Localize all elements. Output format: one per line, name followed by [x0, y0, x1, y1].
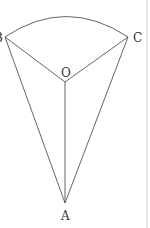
segment-ca	[65, 37, 128, 203]
segment-bo	[5, 37, 65, 82]
segment-ba	[5, 37, 65, 203]
arc-bc	[5, 17, 128, 38]
geometry-diagram: B C O A	[0, 0, 150, 228]
segment-oc	[65, 37, 128, 82]
label-b: B	[0, 31, 3, 45]
label-o: O	[61, 66, 71, 80]
label-c: C	[133, 31, 142, 45]
page-edge-border	[146, 0, 148, 228]
label-a: A	[60, 209, 70, 223]
